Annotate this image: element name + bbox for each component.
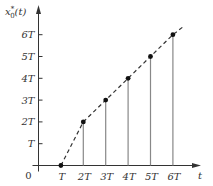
sample-points: [59, 32, 176, 168]
x-axis-arrow-icon: [192, 163, 201, 168]
y-axis-label: x*0(t): [5, 5, 27, 20]
y-tick-label: 4T: [20, 73, 35, 84]
y-tick-label: T: [28, 138, 36, 149]
x-tick-label: 4T: [122, 171, 137, 182]
x-tick-label: 3T: [100, 171, 114, 182]
data-point: [148, 54, 153, 59]
data-point: [59, 163, 64, 168]
origin-label: 0: [25, 170, 31, 181]
x-tick-label: 6T: [167, 171, 181, 182]
x-axis-label: t: [198, 170, 203, 181]
chart: T2T3T4T5T6TT2T3T4T5T6T0tx*0(t): [0, 0, 213, 186]
y-tick-label: 2T: [20, 116, 35, 127]
x-tick-label: 5T: [145, 171, 159, 182]
y-axis-arrow-icon: [36, 5, 41, 14]
data-point: [103, 98, 108, 103]
data-point: [126, 76, 131, 81]
y-tick-label: 5T: [21, 51, 35, 62]
x-tick-label: 2T: [77, 171, 92, 182]
dashed-line: [61, 26, 184, 166]
data-point: [81, 120, 86, 125]
y-tick-label: 6T: [21, 29, 35, 40]
y-tick-label: 3T: [21, 95, 35, 106]
axes: [33, 5, 202, 172]
x-tick-label: T: [59, 171, 67, 182]
data-point: [171, 32, 176, 37]
interpolation-line: [61, 26, 184, 166]
stems: [83, 35, 173, 166]
